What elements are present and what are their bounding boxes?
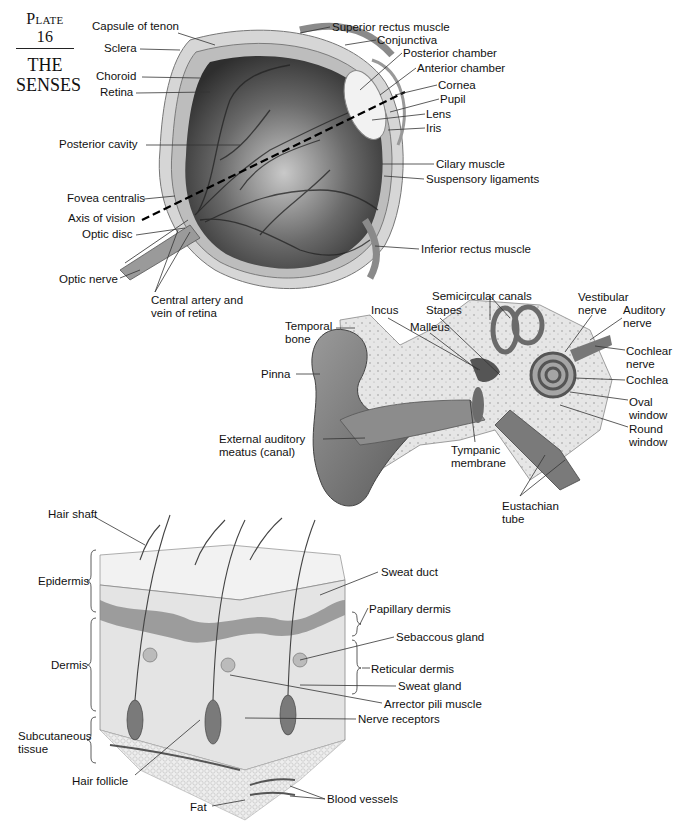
label-hair-follicle: Hair follicle	[72, 775, 128, 788]
label-hair-shaft: Hair shaft	[48, 508, 97, 521]
label-reticular-dermis: Reticular dermis	[371, 663, 454, 676]
label-arrector-pili-muscle: Arrector pili muscle	[384, 698, 482, 711]
ear-illustration	[312, 300, 612, 506]
label-oval-window: Oval window	[629, 396, 667, 422]
anatomy-illustrations	[0, 0, 682, 832]
label-cornea: Cornea	[438, 79, 476, 92]
label-pupil: Pupil	[440, 93, 466, 106]
label-inferior-rectus-muscle: Inferior rectus muscle	[421, 243, 531, 256]
label-conjunctiva: Conjunctiva	[377, 34, 437, 47]
label-retina: Retina	[100, 86, 133, 99]
label-external-auditory-meatus: External auditory meatus (canal)	[219, 433, 305, 459]
label-posterior-cavity: Posterior cavity	[59, 138, 138, 151]
skin-illustration	[100, 515, 345, 820]
label-stapes: Stapes	[426, 304, 462, 317]
label-malleus: Malleus	[410, 321, 450, 334]
label-auditory-nerve: Auditory nerve	[623, 304, 665, 330]
label-cochlea: Cochlea	[626, 374, 668, 387]
label-cilary-muscle: Cilary muscle	[436, 158, 505, 171]
label-vestibular-nerve: Vestibular nerve	[578, 291, 629, 317]
label-choroid: Choroid	[96, 70, 136, 83]
label-suspensory-ligaments: Suspensory ligaments	[426, 173, 539, 186]
label-pinna: Pinna	[261, 368, 290, 381]
label-epidermis: Epidermis	[38, 575, 89, 588]
label-tympanic-membrane: Tympanic membrane	[451, 444, 506, 470]
eye-illustration	[120, 26, 405, 288]
label-sclera: Sclera	[104, 42, 137, 55]
label-nerve-receptors: Nerve receptors	[358, 713, 440, 726]
label-anterior-chamber: Anterior chamber	[417, 62, 505, 75]
label-posterior-chamber: Posterior chamber	[403, 47, 497, 60]
label-fovea-centralis: Fovea centralis	[67, 192, 145, 205]
label-optic-disc: Optic disc	[82, 228, 133, 241]
label-incus: Incus	[371, 304, 399, 317]
label-semicircular-canals: Semicircular canals	[432, 290, 532, 303]
label-fat: Fat	[190, 801, 207, 814]
label-capsule-of-tenon: Capsule of tenon	[92, 20, 179, 33]
label-lens: Lens	[426, 108, 451, 121]
label-central-artery: Central artery and vein of retina	[151, 294, 243, 320]
label-subcutaneous-tissue: Subcutaneous tissue	[18, 730, 92, 756]
label-eustachian-tube: Eustachian tube	[502, 500, 559, 526]
label-iris: Iris	[426, 122, 441, 135]
label-sweat-duct: Sweat duct	[381, 566, 438, 579]
label-superior-rectus-muscle: Superior rectus muscle	[332, 21, 450, 34]
label-papillary-dermis: Papillary dermis	[369, 603, 451, 616]
label-round-window: Round window	[629, 423, 667, 449]
label-sebaccous-gland: Sebaccous gland	[396, 631, 484, 644]
label-sweat-gland: Sweat gland	[398, 680, 461, 693]
label-cochlear-nerve: Cochlear nerve	[626, 345, 672, 371]
label-optic-nerve: Optic nerve	[59, 273, 118, 286]
label-temporal-bone: Temporal bone	[285, 320, 332, 346]
label-axis-of-vision: Axis of vision	[68, 212, 135, 225]
label-blood-vessels: Blood vessels	[327, 793, 398, 806]
label-dermis: Dermis	[51, 659, 87, 672]
